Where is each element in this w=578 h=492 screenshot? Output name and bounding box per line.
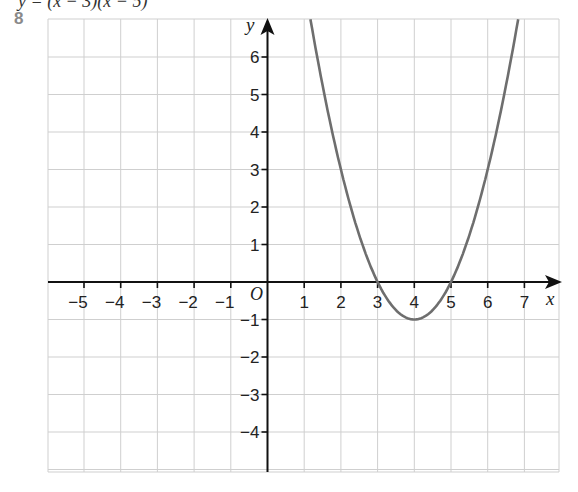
y-tick-label: 5: [250, 86, 259, 105]
x-tick-label: 1: [299, 293, 308, 312]
y-tick-label: −2: [240, 348, 259, 367]
origin-label: O: [250, 284, 263, 304]
y-tick-label: 1: [250, 236, 259, 255]
x-tick-label: −3: [142, 293, 161, 312]
y-tick-label: −3: [240, 386, 259, 405]
grid-lines: [48, 19, 559, 472]
x-tick-label: −5: [68, 293, 87, 312]
x-tick-label: −1: [215, 293, 234, 312]
x-tick-label: 3: [373, 293, 382, 312]
y-tick-label: −4: [240, 423, 259, 442]
x-tick-label: −2: [178, 293, 197, 312]
x-tick-label: 5: [446, 293, 455, 312]
x-tick-label: −4: [105, 293, 124, 312]
y-tick-label: −1: [240, 311, 259, 330]
y-tick-label: 3: [250, 161, 259, 180]
x-tick-label: 2: [336, 293, 345, 312]
y-tick-label: 6: [250, 48, 259, 67]
y-tick-label: 4: [250, 123, 259, 142]
x-tick-label: 7: [520, 293, 529, 312]
y-axis-label: y: [244, 14, 255, 35]
x-tick-label: 4: [410, 293, 419, 312]
x-tick-label: 6: [483, 293, 492, 312]
y-tick-label: 2: [250, 198, 259, 217]
parabola-graph: −5−4−3−2−11234567654321−1−2−3−4 x y O: [0, 0, 578, 492]
x-axis-label: x: [545, 288, 555, 309]
